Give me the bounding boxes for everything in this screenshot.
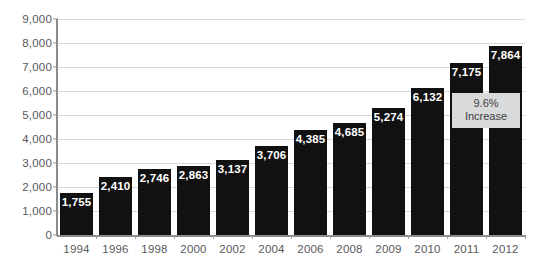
x-axis-tick-label: 2010 [408, 243, 447, 255]
bar-value-label: 5,274 [372, 111, 406, 123]
x-axis-tick-mark [447, 235, 448, 239]
x-axis-tick-mark [174, 235, 175, 239]
bar[interactable]: 1,755 [60, 193, 94, 235]
annotation-callout: 9.6% Increase [452, 93, 520, 128]
y-axis-tick-label: 5,000 [22, 109, 52, 121]
bar-value-label: 7,864 [489, 49, 523, 61]
x-axis-tick-mark [330, 235, 331, 239]
x-axis-tick-mark [252, 235, 253, 239]
x-axis-tick-label: 2012 [486, 243, 525, 255]
bar-value-label: 3,706 [255, 149, 289, 161]
bar-value-label: 2,746 [138, 172, 172, 184]
gridline [57, 43, 525, 44]
bar[interactable]: 5,274 [372, 108, 406, 235]
y-axis-tick-label: 8,000 [22, 37, 52, 49]
y-axis-tick-label: 4,000 [22, 133, 52, 145]
x-axis-tick-mark [135, 235, 136, 239]
bar-value-label: 4,385 [294, 133, 328, 145]
annotation-line-2: Increase [458, 110, 514, 123]
x-axis-tick-label: 2009 [369, 243, 408, 255]
gridline [57, 19, 525, 20]
y-axis-tick-label: 3,000 [22, 157, 52, 169]
x-axis-tick-label: 2006 [291, 243, 330, 255]
y-axis-tick-label: 7,000 [22, 61, 52, 73]
y-axis-tick-label: 6,000 [22, 85, 52, 97]
y-axis-line [56, 19, 58, 236]
x-axis-tick-mark [408, 235, 409, 239]
bar[interactable]: 2,746 [138, 169, 172, 235]
bar-value-label: 1,755 [60, 196, 94, 208]
bar-value-label: 3,137 [216, 163, 250, 175]
bar-value-label: 7,175 [450, 66, 484, 78]
x-axis-tick-mark [525, 235, 526, 239]
x-axis-tick-label: 2008 [330, 243, 369, 255]
bar-value-label: 2,410 [99, 180, 133, 192]
x-axis-tick-label: 2002 [213, 243, 252, 255]
bar-value-label: 2,863 [177, 169, 211, 181]
x-axis-tick-mark [213, 235, 214, 239]
x-axis-tick-mark [96, 235, 97, 239]
bar-value-label: 6,132 [411, 91, 445, 103]
y-axis-tick-label: 2,000 [22, 181, 52, 193]
x-axis-tick-label: 1994 [57, 243, 96, 255]
x-axis-tick-label: 2004 [252, 243, 291, 255]
x-axis-tick-label: 2000 [174, 243, 213, 255]
bar[interactable]: 2,863 [177, 166, 211, 235]
bar[interactable]: 6,132 [411, 88, 445, 235]
y-axis-tick-label: 1,000 [22, 205, 52, 217]
bar-chart: 01,0002,0003,0004,0005,0006,0007,0008,00… [0, 0, 533, 276]
bar[interactable]: 3,137 [216, 160, 250, 235]
x-axis-tick-label: 1998 [135, 243, 174, 255]
bar-value-label: 4,685 [333, 126, 367, 138]
x-axis-tick-mark [291, 235, 292, 239]
bar[interactable]: 7,175 [450, 63, 484, 235]
annotation-line-1: 9.6% [473, 97, 498, 109]
y-axis-tick-label: 0 [45, 229, 52, 241]
y-axis-tick-labels: 01,0002,0003,0004,0005,0006,0007,0008,00… [0, 0, 52, 276]
x-axis-tick-mark [486, 235, 487, 239]
x-axis-tick-label: 1996 [96, 243, 135, 255]
x-axis-tick-mark [369, 235, 370, 239]
bar[interactable]: 3,706 [255, 146, 289, 235]
bar[interactable]: 4,385 [294, 130, 328, 235]
bar[interactable]: 7,864 [489, 46, 523, 235]
bar[interactable]: 2,410 [99, 177, 133, 235]
x-axis-tick-label: 2011 [447, 243, 486, 255]
bar[interactable]: 4,685 [333, 123, 367, 235]
y-axis-tick-label: 9,000 [22, 13, 52, 25]
